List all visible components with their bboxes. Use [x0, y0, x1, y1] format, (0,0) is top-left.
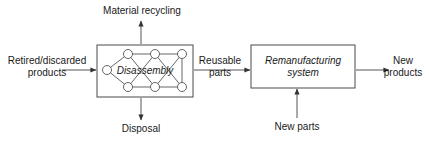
label-retired-discarded-products: Retired/discarded products	[2, 55, 92, 79]
label-new-products: New products	[378, 55, 428, 79]
diagram-canvas: Disassembly Remanufacturing system Mater…	[0, 0, 429, 145]
remanufacturing-box-label: Remanufacturing system	[251, 45, 355, 88]
label-disposal: Disposal	[106, 123, 176, 135]
disassembly-box-label-text: Disassembly	[117, 65, 174, 77]
label-new-parts: New parts	[262, 121, 332, 133]
remanufacturing-box-label-text: Remanufacturing system	[265, 55, 341, 79]
disassembly-box-label: Disassembly	[97, 45, 193, 97]
label-material-recycling: Material recycling	[99, 5, 185, 17]
label-reusable-parts: Reusable parts	[194, 55, 246, 79]
